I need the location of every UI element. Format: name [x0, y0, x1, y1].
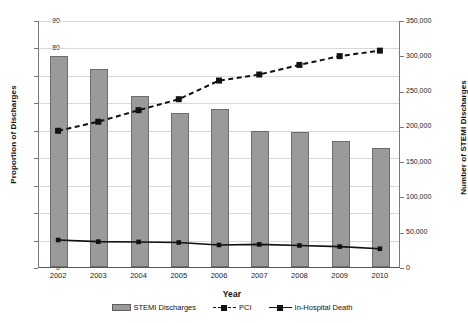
legend-item-in-hospital-death: In-Hospital Death: [269, 303, 353, 312]
series-marker: [176, 96, 182, 102]
legend-label: STEMI Discharges: [134, 303, 197, 312]
series-marker: [216, 78, 222, 84]
series-marker: [96, 239, 101, 244]
y-axis-right-tick-mark: [400, 92, 404, 93]
series-marker: [55, 128, 61, 134]
series-marker: [297, 243, 302, 248]
legend-label: In-Hospital Death: [295, 303, 353, 312]
series-line: [58, 51, 380, 131]
series-marker: [378, 246, 383, 251]
y-axis-right-tick-label: 150,000: [406, 158, 452, 165]
legend-label: PCI: [239, 303, 252, 312]
y-axis-right-tick-label: 50,000: [406, 228, 452, 235]
legend-item-stemi-discharges: STEMI Discharges: [112, 303, 197, 312]
legend-item-pci: PCI: [213, 303, 252, 312]
y-axis-right-tick-mark: [400, 268, 404, 269]
series-marker: [337, 244, 342, 249]
series-marker: [56, 238, 61, 243]
y-axis-right-tick-mark: [400, 21, 404, 22]
y-axis-right-tick-mark: [400, 197, 404, 198]
y-axis-left-tick-mark: [34, 268, 38, 269]
series-marker: [136, 107, 142, 113]
series-marker: [257, 242, 262, 247]
series-marker: [337, 53, 343, 59]
y-axis-left-title: Proportion of Discharges: [9, 75, 18, 195]
bar-swatch-icon: [112, 304, 131, 311]
series-marker: [296, 62, 302, 68]
y-axis-right-tick-mark: [400, 233, 404, 234]
x-axis-tick-label: 2010: [355, 271, 405, 280]
series-marker: [95, 119, 101, 125]
y-axis-right-tick-label: 0: [406, 264, 452, 271]
series-marker: [377, 48, 383, 54]
dashed-line-swatch-icon: [213, 304, 236, 312]
solid-line-swatch-icon: [269, 304, 292, 312]
series-marker: [256, 72, 262, 78]
y-axis-right-tick-label: 300,000: [406, 52, 452, 59]
y-axis-right-tick-label: 250,000: [406, 87, 452, 94]
y-axis-right-tick-mark: [400, 162, 404, 163]
line-series-overlay: [38, 21, 400, 268]
series-marker: [176, 240, 181, 245]
y-axis-right-tick-label: 200,000: [406, 122, 452, 129]
x-axis-title: Year: [0, 289, 464, 299]
series-marker: [136, 240, 141, 245]
series-marker: [217, 243, 222, 248]
y-axis-right-tick-label: 350,000: [406, 17, 452, 24]
y-axis-right-tick-mark: [400, 127, 404, 128]
y-axis-right-tick-mark: [400, 56, 404, 57]
chart-legend: STEMI Discharges PCI In-Hospital Death: [0, 303, 464, 312]
y-axis-right-tick-label: 100,000: [406, 193, 452, 200]
y-axis-right-title: Number of STEMI Discharges: [459, 68, 468, 208]
